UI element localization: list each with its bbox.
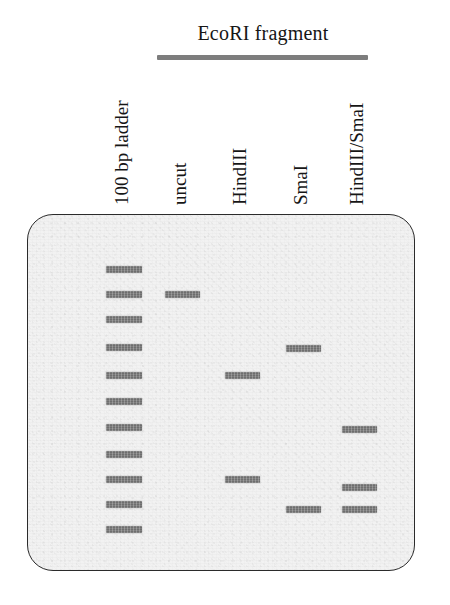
band-smai-300	[286, 506, 321, 513]
band-ladder-500	[106, 424, 142, 431]
band-ladder-100	[106, 526, 142, 533]
band-ladder-200	[106, 501, 142, 508]
band-hindiii-smai-400	[342, 484, 377, 491]
group-header-bar	[157, 55, 368, 60]
band-ladder-600	[106, 398, 142, 405]
band-hindiii-400	[225, 476, 260, 483]
band-hindiii-smai-300	[342, 506, 377, 513]
band-ladder-1100	[106, 266, 142, 273]
group-header-label: EcoRI fragment	[150, 22, 376, 45]
lane-label-smai: SmaI	[291, 165, 310, 205]
band-hindiii-smai-500	[342, 426, 377, 433]
band-uncut-1000	[165, 291, 200, 298]
band-ladder-900	[106, 316, 142, 323]
lane-label-hindiii: HindIII	[230, 148, 249, 205]
band-ladder-800	[106, 344, 142, 351]
band-hindiii-700	[225, 372, 260, 379]
gel-texture	[28, 215, 414, 570]
band-ladder-400	[106, 451, 142, 458]
band-ladder-700	[106, 372, 142, 379]
lane-label-ladder: 100 bp ladder	[112, 101, 131, 205]
lane-label-hindiii-smai: HindIII/SmaI	[347, 103, 366, 205]
band-ladder-300	[106, 476, 142, 483]
gel-electrophoresis-figure: EcoRI fragment 100 bp ladder uncut HindI…	[0, 0, 450, 605]
band-ladder-1000	[106, 291, 142, 298]
gel-plate	[27, 214, 415, 571]
lane-label-uncut: uncut	[170, 163, 189, 205]
band-smai-800	[286, 345, 321, 352]
